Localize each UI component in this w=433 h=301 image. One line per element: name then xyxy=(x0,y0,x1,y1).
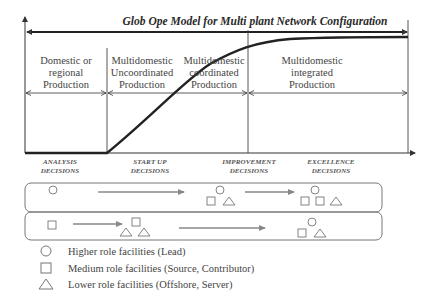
triangle-icon xyxy=(38,277,54,291)
triangle-icon xyxy=(223,197,235,205)
decision-line: DECISIONS xyxy=(214,167,284,176)
phase-label-coordinated: Multidomestic coordinated Production xyxy=(180,55,248,91)
legend-label: Medium role facilities (Source, Contribu… xyxy=(68,263,254,274)
legend-item-medium: Medium role facilities (Source, Contribu… xyxy=(38,260,254,276)
diagram-title: Glob Ope Model for Multi plant Network C… xyxy=(95,15,415,27)
phase-line: coordinated xyxy=(180,67,248,79)
circle-icon xyxy=(216,186,224,194)
square-icon xyxy=(316,197,324,205)
circle-icon xyxy=(49,186,57,194)
triangle-icon xyxy=(314,229,326,237)
phase-label-uncoordinated: Multidomestic Uncoordinated Production xyxy=(106,55,178,91)
decision-line: IMPROVEMENT xyxy=(214,158,284,167)
square-icon xyxy=(207,197,215,205)
phase-line: Production xyxy=(268,79,356,91)
triangle-icon xyxy=(138,228,150,236)
square-icon xyxy=(48,221,56,229)
decision-line: EXCELLENCE xyxy=(296,158,366,167)
square-icon xyxy=(298,229,306,237)
evolution-row-1 xyxy=(25,183,382,212)
phase-line: Production xyxy=(180,79,248,91)
phase-line: Production xyxy=(26,79,106,91)
legend-label: Higher role facilities (Lead) xyxy=(68,246,185,257)
phase-line: integrated xyxy=(268,67,356,79)
phase-label-domestic: Domestic or regional Production xyxy=(26,55,106,91)
legend-item-higher: Higher role facilities (Lead) xyxy=(38,243,185,259)
evolution-row-2 xyxy=(25,212,382,240)
decision-label-excellence: EXCELLENCE DECISIONS xyxy=(296,158,366,176)
circle-icon xyxy=(311,186,319,194)
phase-line: Production xyxy=(106,79,178,91)
phase-line: Multidomestic xyxy=(106,55,178,67)
circle-icon xyxy=(308,218,316,226)
row-1-shapes xyxy=(49,186,342,205)
decision-line: DECISIONS xyxy=(26,167,94,176)
square-icon xyxy=(38,261,54,275)
decision-line: DECISIONS xyxy=(116,167,184,176)
decision-label-analysis: ANALYSIS DECISIONS xyxy=(26,158,94,176)
decision-line: ANALYSIS xyxy=(26,158,94,167)
circle-icon xyxy=(38,244,54,258)
decision-line: START UP xyxy=(116,158,184,167)
legend-item-lower: Lower role facilities (Offshore, Server) xyxy=(38,276,233,292)
square-icon xyxy=(132,218,140,226)
phase-line: Multidomestic xyxy=(268,55,356,67)
phase-line: Domestic or xyxy=(26,55,106,67)
triangle-icon xyxy=(120,228,132,236)
decision-line: DECISIONS xyxy=(296,167,366,176)
row-2-shapes xyxy=(48,218,326,237)
triangle-icon xyxy=(330,197,342,205)
phase-line: Multidomestic xyxy=(180,55,248,67)
phase-line: regional xyxy=(26,67,106,79)
square-icon xyxy=(301,197,309,205)
phase-line: Uncoordinated xyxy=(106,67,178,79)
legend-label: Lower role facilities (Offshore, Server) xyxy=(68,279,233,290)
decision-label-startup: START UP DECISIONS xyxy=(116,158,184,176)
phase-label-integrated: Multidomestic integrated Production xyxy=(268,55,356,91)
decision-label-improvement: IMPROVEMENT DECISIONS xyxy=(214,158,284,176)
